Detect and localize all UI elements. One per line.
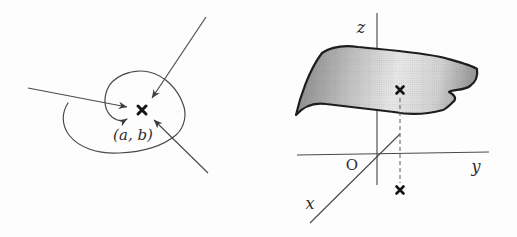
origin-label: O xyxy=(346,156,358,174)
plane-point-cross-icon xyxy=(397,187,404,194)
figure-right-surface-plot: z y x O xyxy=(258,0,517,237)
x-axis-label: x xyxy=(305,194,314,213)
y-axis-label: y xyxy=(470,157,481,176)
x-axis xyxy=(310,134,400,223)
textbook-figure-canvas: (a, b) xyxy=(0,0,517,237)
surface-patch xyxy=(296,46,477,115)
point-ab-cross-icon xyxy=(138,106,146,114)
approach-arrow-top-right xyxy=(152,17,206,98)
figure-left-approach-paths: (a, b) xyxy=(0,0,258,237)
point-ab-label: (a, b) xyxy=(113,126,153,144)
y-axis xyxy=(297,152,489,155)
z-axis-label: z xyxy=(356,18,366,37)
approach-arrow-left xyxy=(28,88,127,107)
